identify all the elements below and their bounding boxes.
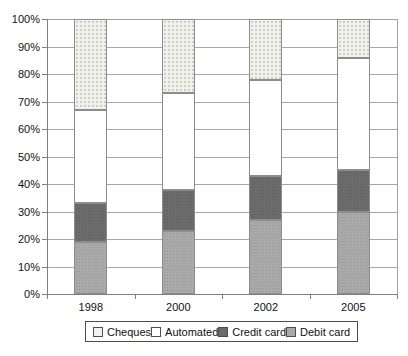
bar-segment-automated (74, 110, 107, 204)
legend-item-cheques: Cheques (93, 326, 151, 338)
x-axis-tick (310, 295, 311, 299)
legend-label: Automated (165, 326, 218, 338)
x-category-label: 1998 (56, 301, 126, 313)
legend-item-debit-card: Debit card (286, 326, 350, 338)
bar-segment-debit-card (249, 220, 282, 294)
legend-label: Cheques (107, 326, 151, 338)
y-tick-label: 80% (0, 68, 40, 80)
y-axis-tick (42, 74, 47, 75)
x-axis-tick (135, 295, 136, 299)
y-tick-label: 90% (0, 41, 40, 53)
legend-item-automated: Automated (151, 326, 218, 338)
legend-swatch-cheques (93, 327, 103, 337)
y-axis-tick (42, 47, 47, 48)
y-axis-tick (42, 212, 47, 213)
bar-segment-automated (249, 80, 282, 176)
bar-segment-cheques (337, 19, 370, 58)
y-axis-tick (42, 129, 47, 130)
y-tick-label: 10% (0, 261, 40, 273)
y-tick-label: 70% (0, 96, 40, 108)
y-tick-label: 40% (0, 178, 40, 190)
legend-label: Debit card (300, 326, 350, 338)
bar-segment-cheques (249, 19, 282, 80)
y-axis-tick (42, 239, 47, 240)
bar-segment-automated (162, 93, 195, 189)
legend: ChequesAutomatedCredit cardDebit card (85, 321, 358, 342)
bar-segment-automated (337, 58, 370, 171)
y-axis-tick (42, 102, 47, 103)
legend-swatch-debit-card (286, 327, 296, 337)
y-axis-tick (42, 184, 47, 185)
y-axis-line (47, 19, 48, 295)
x-category-label: 2000 (143, 301, 213, 313)
x-category-label: 2002 (231, 301, 301, 313)
y-axis-tick (42, 267, 47, 268)
legend-label: Credit card (232, 326, 286, 338)
y-axis-tick (42, 157, 47, 158)
x-axis-tick (397, 295, 398, 299)
bar-segment-debit-card (337, 212, 370, 295)
y-axis-tick (42, 19, 47, 20)
y-tick-label: 30% (0, 206, 40, 218)
legend-swatch-credit-card (218, 327, 228, 337)
y-tick-label: 0% (0, 288, 40, 300)
bar-segment-debit-card (162, 231, 195, 294)
y-tick-label: 100% (0, 13, 40, 25)
legend-item-credit-card: Credit card (218, 326, 286, 338)
bar-segment-debit-card (74, 242, 107, 294)
bar-segment-credit-card (337, 170, 370, 211)
y-tick-label: 50% (0, 151, 40, 163)
bar-segment-credit-card (162, 190, 195, 231)
x-category-label: 2005 (318, 301, 388, 313)
bar-segment-credit-card (249, 176, 282, 220)
legend-swatch-automated (151, 327, 161, 337)
bar-segment-credit-card (74, 203, 107, 242)
y-tick-label: 60% (0, 123, 40, 135)
stacked-bar-chart: 0%10%20%30%40%50%60%70%80%90%100% 199820… (0, 0, 408, 356)
x-axis-tick (222, 295, 223, 299)
bar-segment-cheques (74, 19, 107, 110)
bar-segment-cheques (162, 19, 195, 93)
y-tick-label: 20% (0, 233, 40, 245)
x-axis-tick (47, 295, 48, 299)
